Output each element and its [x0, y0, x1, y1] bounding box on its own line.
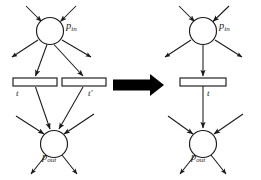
label-t: t [16, 88, 19, 98]
arc-pout-out-right [62, 155, 77, 174]
arc-out-lowerright [62, 40, 91, 57]
arc-t-to-pout [36, 87, 51, 129]
arc-tprime-to-pout [59, 87, 83, 129]
arc-out-lowerright [215, 40, 242, 57]
label-t: t [207, 88, 210, 98]
arc-in-topleft [179, 6, 195, 22]
petri-net-canvas: pin pout t t′ [0, 0, 261, 180]
implies-arrow [113, 74, 164, 96]
label-p-in: pin [65, 20, 77, 33]
arc-pout-out-right [211, 155, 226, 174]
transition-t[interactable] [180, 78, 226, 86]
label-p-in: pin [218, 20, 230, 33]
left-net-group: pin pout t t′ [12, 6, 106, 174]
arc-out-lowerleft [165, 40, 191, 57]
label-t-prime: t′ [88, 88, 94, 98]
arc-pout-in-upperright [64, 114, 94, 134]
arc-out-lowerleft [12, 40, 38, 57]
arc-in-topleft [26, 6, 42, 22]
arc-pout-in-upperleft [16, 116, 44, 134]
arc-pin-to-t [36, 45, 48, 77]
arc-pout-in-upperright [214, 114, 243, 134]
transition-t-prime[interactable] [62, 78, 106, 86]
place-p-in[interactable] [190, 18, 217, 45]
transition-t[interactable] [13, 78, 57, 86]
petri-net-figure: pin pout t t′ [0, 0, 261, 180]
arc-pout-in-upperleft [168, 116, 193, 134]
place-p-in[interactable] [37, 18, 64, 45]
right-net-group: pin pout t [165, 6, 243, 174]
